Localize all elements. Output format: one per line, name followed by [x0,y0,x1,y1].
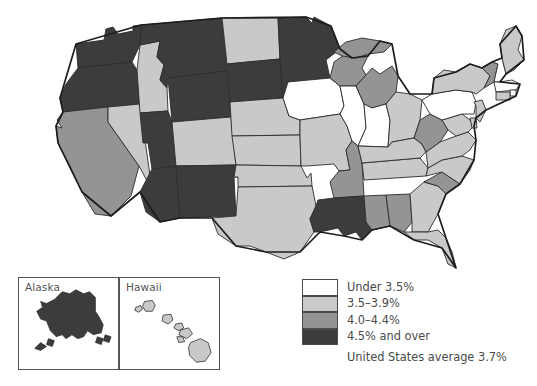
state-CT[interactable] [496,92,510,100]
state-NM[interactable] [176,165,238,218]
state-WY[interactable] [168,71,231,122]
state-HI[interactable] [135,301,211,363]
state-AK[interactable] [35,290,111,351]
legend-swatch-4-5-over [302,329,338,346]
legend-label-4-5-over: 4.5% and over [347,331,430,342]
map-legend: Under 3.5% 3.5–3.9% 4.0–4.4% 4.5% and ov… [302,279,507,364]
inset-hawaii: Hawaii [119,277,220,370]
legend-row[interactable]: 4.0–4.4% [302,312,507,329]
legend-label-3-5-3-9: 3.5–3.9% [347,298,400,309]
inset-alaska: Alaska [18,277,119,370]
state-MO[interactable] [300,114,352,171]
state-KS[interactable] [232,135,301,166]
state-MS[interactable] [364,195,390,230]
state-SD[interactable] [227,59,283,102]
state-OK[interactable] [234,165,312,187]
legend-label-under-3-5: Under 3.5% [347,282,414,293]
legend-swatch-3-5-3-9 [302,296,338,313]
legend-national-average-note: United States average 3.7% [347,350,507,364]
state-OR[interactable] [60,62,140,112]
state-CO[interactable] [172,117,236,166]
legend-row[interactable]: 4.5% and over [302,329,507,346]
alaska-shape [19,278,118,369]
choropleth-figure: Alaska Hawaii Under 3.5% 3.5–3. [0,0,537,386]
legend-swatch-under-3-5 [302,279,338,296]
legend-row[interactable]: Under 3.5% [302,279,507,296]
legend-swatch-4-0-4-4 [302,312,338,329]
legend-label-4-0-4-4: 4.0–4.4% [347,315,400,326]
legend-row[interactable]: 3.5–3.9% [302,296,507,313]
hawaii-shape [120,278,219,369]
us-main-map [0,0,537,300]
state-IA[interactable] [283,78,344,120]
state-ND[interactable] [222,18,280,64]
state-WA[interactable] [76,25,141,68]
state-RI[interactable] [510,90,516,96]
state-FL[interactable] [404,230,456,268]
